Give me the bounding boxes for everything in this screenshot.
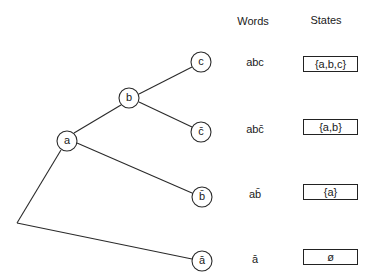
state-box-row-3: {a} [303,184,358,200]
edge-a-b [74,105,121,133]
edge-root-a [17,150,61,223]
node-a-label: a [57,131,77,151]
edge-b-cbar [139,102,192,127]
node-bbar-label: b̄ [192,187,212,207]
word-row-3: ab̄ [230,188,280,200]
node-b-label: b [119,88,139,108]
state-box-row-1: {a,b,c} [303,56,358,72]
edge-a-bbar [77,143,192,193]
node-cbar-label: c̄ [191,122,211,142]
words-header: Words [223,15,283,27]
word-row-4: ā [230,253,280,265]
edge-root-abar [17,223,192,259]
node-abar-label: ā [192,251,212,271]
states-header: States [296,14,356,26]
state-box-row-4: ø [303,249,358,265]
word-row-1: abc [230,56,280,68]
tree-diagram [0,0,372,280]
state-box-row-2: {a,b} [303,119,358,135]
edge-b-c [139,67,192,94]
node-c-label: c [191,52,211,72]
word-row-2: abc̄ [230,123,280,135]
